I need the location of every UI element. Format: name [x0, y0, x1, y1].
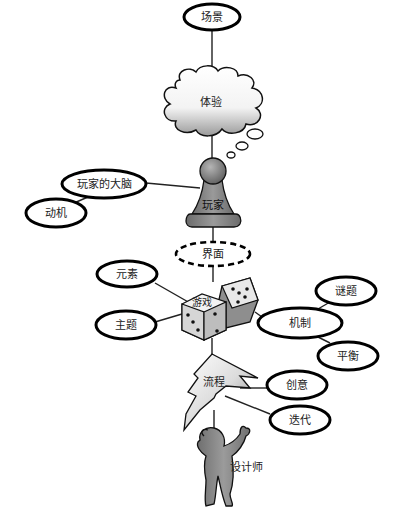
player-mind-label: 玩家的大脑: [77, 177, 132, 191]
edge-player-mind: [146, 183, 200, 188]
lightning-bolt-icon: [184, 354, 258, 430]
creativity-label: 创意: [286, 378, 308, 392]
edge-mechanics-balance: [318, 337, 330, 343]
motivation-label: 动机: [45, 206, 67, 220]
node-motivation: 动机: [26, 199, 86, 227]
node-mechanics: 机制: [258, 308, 342, 338]
thought-bubble-icon: [247, 129, 263, 139]
puzzles-label: 谜题: [335, 285, 357, 298]
interface-label: 界面: [202, 248, 224, 261]
thought-bubble-icon: [236, 142, 248, 150]
player-label: 玩家: [202, 198, 224, 212]
thought-bubble-icon: [227, 152, 235, 158]
node-player: 玩家: [186, 158, 241, 227]
game-design-diagram: 场景 体验 玩家 玩家的大脑 动机 界面 元素 主题: [0, 0, 402, 532]
edge-process-iteration: [225, 396, 270, 414]
node-game: 游戏: [182, 278, 258, 340]
edge-game-theme: [155, 314, 182, 322]
elements-label: 元素: [116, 268, 138, 281]
node-process: 流程: [184, 354, 258, 430]
node-designer: 设计师: [197, 426, 262, 506]
node-player-mind: 玩家的大脑: [62, 170, 146, 198]
node-interface: 界面: [176, 242, 250, 266]
node-iteration: 迭代: [270, 406, 330, 434]
process-label: 流程: [203, 375, 225, 389]
game-label: 游戏: [192, 296, 212, 308]
node-elements: 元素: [97, 261, 157, 287]
node-scene: 场景: [184, 4, 240, 30]
node-theme: 主题: [96, 311, 156, 339]
edge-game-elements: [155, 283, 190, 303]
theme-label: 主题: [115, 319, 137, 332]
node-balance: 平衡: [318, 342, 378, 370]
designer-label: 设计师: [230, 461, 263, 474]
node-creativity: 创意: [267, 371, 327, 399]
balance-label: 平衡: [337, 350, 359, 363]
iteration-label: 迭代: [289, 414, 311, 427]
node-puzzles: 谜题: [316, 277, 376, 305]
experience-label: 体验: [200, 95, 222, 109]
pawn-head-icon: [200, 158, 226, 184]
scene-label: 场景: [201, 10, 223, 24]
mechanics-label: 机制: [289, 316, 311, 330]
node-experience: 体验: [164, 66, 263, 158]
pawn-base-icon: [186, 214, 241, 227]
